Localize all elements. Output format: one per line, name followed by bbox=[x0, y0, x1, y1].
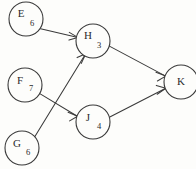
node-h[interactable]: H 3 bbox=[76, 24, 110, 58]
node-label-j: J bbox=[86, 111, 91, 123]
edge-line-h-k bbox=[109, 46, 164, 76]
node-subscript-g: 6 bbox=[26, 147, 30, 157]
directed-graph-svg: E 6 H 3 F 7 J 4 G 6 bbox=[0, 0, 196, 169]
node-label-k: K bbox=[177, 75, 185, 87]
node-circle-j[interactable] bbox=[76, 105, 110, 139]
node-layer: E 6 H 3 F 7 J 4 G 6 bbox=[5, 2, 196, 165]
edge-line-f-j bbox=[40, 94, 77, 116]
node-g[interactable]: G 6 bbox=[5, 131, 39, 165]
edge-e-to-h bbox=[41, 29, 78, 40]
node-circle-f[interactable] bbox=[8, 68, 42, 102]
node-circle-g[interactable] bbox=[5, 131, 39, 165]
node-circle-e[interactable] bbox=[9, 2, 43, 36]
node-label-e: E bbox=[18, 7, 25, 19]
node-label-f: F bbox=[17, 74, 23, 86]
edge-line-e-h bbox=[41, 29, 77, 37]
node-subscript-f: 7 bbox=[29, 83, 33, 93]
node-f[interactable]: F 7 bbox=[8, 68, 42, 102]
node-label-g: G bbox=[13, 137, 21, 149]
node-k[interactable]: K bbox=[164, 65, 196, 99]
edge-line-j-k bbox=[110, 89, 165, 117]
node-j[interactable]: J 4 bbox=[76, 105, 110, 139]
node-circle-h[interactable] bbox=[76, 24, 110, 58]
node-e[interactable]: E 6 bbox=[9, 2, 43, 36]
edge-j-to-k bbox=[110, 85, 166, 117]
node-subscript-e: 6 bbox=[30, 18, 34, 28]
node-label-h: H bbox=[84, 29, 92, 41]
diagram-canvas: E 6 H 3 F 7 J 4 G 6 bbox=[0, 0, 196, 169]
node-subscript-h: 3 bbox=[97, 40, 101, 50]
edge-h-to-k bbox=[109, 46, 165, 81]
